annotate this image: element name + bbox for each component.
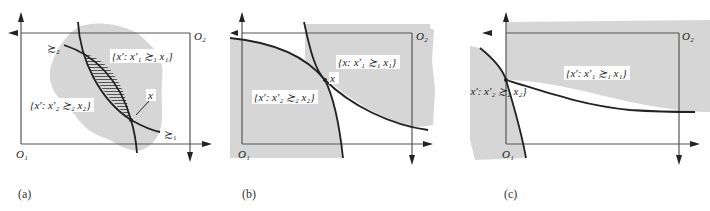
origin-1: O₁ — [238, 148, 250, 160]
point-label: x — [147, 89, 153, 101]
panel-a: ≿₂ ≿₁ {x′: x′₁ ≿₁ x₁} {x′: x′₂ ≿₂ x₂} x … — [0, 0, 235, 211]
arrow-right-icon — [690, 141, 700, 147]
caption: (b) — [242, 187, 256, 201]
edgeworth-box-a: ≿₂ ≿₁ {x′: x′₁ ≿₁ x₁} {x′: x′₂ ≿₂ x₂} x … — [0, 0, 235, 211]
arrow-down-icon — [409, 155, 415, 165]
caption: (a) — [18, 187, 31, 201]
arrow-left-icon — [8, 30, 18, 36]
curve-label-2: ≿₂ — [47, 42, 60, 54]
origin-2: O₂ — [194, 30, 206, 42]
arrow-up-icon — [18, 12, 24, 22]
origin-1: O₁ — [502, 148, 514, 160]
panel-c: {x′: x′₁ ≿₁ x₁} {x′: x′₂ ≿₂ x₂} O₁ O₂ (c… — [470, 0, 710, 211]
point-x — [323, 78, 327, 82]
set-label-1: {x′: x′₁ ≿₁ x₁} — [112, 50, 173, 62]
edgeworth-box-b: x {x: x′₁ ≿₁ x₁} {x′: x′₂ ≿₂ x₂} O₁ O₂ (… — [230, 0, 470, 211]
arrow-left-icon — [230, 30, 238, 36]
set-label-1: {x: x′₁ ≿₁ x₁} — [338, 56, 397, 68]
arrow-right-icon — [423, 141, 433, 147]
set-label-2: {x′: x′₂ ≿₂ x₂} — [470, 85, 527, 97]
origin-2: O₂ — [682, 30, 694, 42]
point-label: x — [329, 72, 335, 84]
point-x — [129, 118, 133, 122]
point-x — [504, 78, 508, 82]
origin-1: O₁ — [16, 148, 28, 160]
origin-2: O₂ — [416, 30, 428, 42]
set-label-2: {x′: x′₂ ≿₂ x₂} — [30, 99, 91, 111]
edgeworth-box-c: {x′: x′₁ ≿₁ x₁} {x′: x′₂ ≿₂ x₂} O₁ O₂ (c… — [470, 0, 710, 211]
arrow-right-icon — [202, 141, 212, 147]
arrow-left-icon — [482, 30, 492, 36]
caption: (c) — [504, 187, 517, 201]
arrow-up-icon — [503, 12, 509, 22]
curve-label-1: ≿₁ — [164, 128, 177, 140]
arrow-down-icon — [676, 155, 682, 165]
set-label-1: {x′: x′₁ ≿₁ x₁} — [566, 67, 627, 79]
arrow-up-icon — [239, 12, 245, 22]
arrow-down-icon — [187, 152, 193, 162]
panel-b: x {x: x′₁ ≿₁ x₁} {x′: x′₂ ≿₂ x₂} O₁ O₂ (… — [230, 0, 470, 211]
set-label-2: {x′: x′₂ ≿₂ x₂} — [254, 91, 315, 103]
